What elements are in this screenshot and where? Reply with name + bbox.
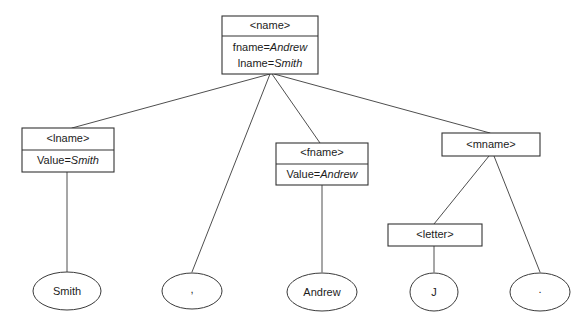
node-name-attr-1-key: lname= [238, 57, 274, 69]
leaf-smith-label: Smith [53, 285, 81, 297]
node-fname-tag: <fname> [300, 146, 343, 158]
leaf-andrew[interactable]: Andrew [287, 273, 357, 311]
leaf-j-label: J [431, 286, 437, 298]
edge-mname-to-period [494, 156, 540, 272]
leaf-comma[interactable]: , [162, 273, 222, 309]
leaf-comma-label: , [190, 283, 193, 295]
tree-canvas: <name> fname=Andrew lname=Smith <lname> … [0, 0, 582, 330]
node-lname-tag: <lname> [47, 132, 90, 144]
leaf-period-label: . [538, 283, 541, 295]
node-fname-attr-0-key: Value= [286, 168, 320, 180]
edge-name-to-comma [192, 74, 270, 272]
edge-mname-to-letter [434, 156, 489, 224]
node-fname[interactable]: <fname> Value=Andrew [276, 143, 368, 185]
node-name-attr-1-value: Smith [274, 57, 302, 69]
leaf-period[interactable]: . [510, 273, 570, 311]
node-name[interactable]: <name> fname=Andrew lname=Smith [222, 16, 318, 74]
node-letter[interactable]: <letter> [388, 224, 482, 246]
leaf-smith[interactable]: Smith [33, 272, 101, 310]
leaf-j[interactable]: J [410, 273, 458, 311]
xml-parse-tree-diagram: <name> fname=Andrew lname=Smith <lname> … [0, 0, 582, 330]
node-fname-attr-0-value: Andrew [319, 168, 358, 180]
edge-name-to-lname [72, 74, 270, 128]
node-lname[interactable]: <lname> Value=Smith [22, 128, 114, 172]
node-lname-attr-0-value: Smith [71, 154, 99, 166]
node-lname-attr-0: Value=Smith [37, 154, 99, 166]
leaf-andrew-label: Andrew [303, 286, 340, 298]
node-lname-attr-0-key: Value= [37, 154, 71, 166]
node-mname[interactable]: <mname> [442, 133, 540, 156]
node-name-attr-0-value: Andrew [269, 41, 308, 53]
node-name-attr-0-key: fname= [233, 41, 270, 53]
node-mname-tag: <mname> [466, 138, 516, 150]
node-name-attr-1: lname=Smith [238, 57, 303, 69]
node-letter-tag: <letter> [416, 228, 453, 240]
node-name-tag: <name> [250, 19, 290, 31]
node-name-attr-0: fname=Andrew [233, 41, 308, 53]
node-fname-attr-0: Value=Andrew [286, 168, 358, 180]
